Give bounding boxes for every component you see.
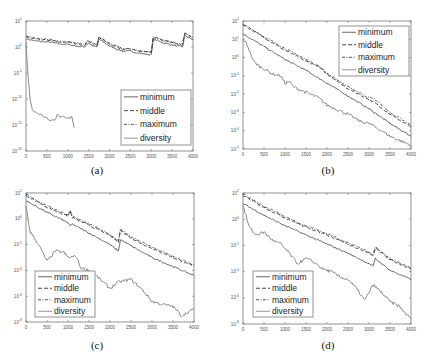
x-tick-label: 500 (43, 325, 51, 330)
x-tick-label: 2500 (343, 327, 354, 332)
x-tick-label: 2000 (105, 325, 116, 330)
y-tick-label: 10-4 (231, 268, 239, 274)
x-tick-label: 2000 (322, 152, 333, 157)
caption-b: (b) (308, 164, 348, 176)
y-tick-label: 10-4 (231, 127, 239, 133)
x-tick-label: 0 (25, 325, 28, 330)
x-tick-label: 1000 (280, 327, 291, 332)
x-tick-label: 3500 (385, 327, 396, 332)
y-tick-label: 10-2 (14, 241, 22, 247)
y-tick-label: 102 (232, 189, 239, 195)
y-tick-label: 105 (15, 17, 22, 23)
legend-label-diversity: diversity (54, 306, 86, 316)
x-tick-label: 2500 (126, 325, 137, 330)
x-tick-label: 3000 (364, 327, 375, 332)
x-tick-label: 4000 (406, 152, 417, 157)
y-tick-label: 10-5 (14, 69, 22, 75)
x-tick-label: 0 (242, 327, 245, 332)
x-tick-label: 500 (43, 154, 51, 159)
legend: minimummiddlemaximumdiversity (35, 271, 95, 317)
y-tick-label: 101 (232, 36, 239, 42)
x-tick-label: 3000 (364, 152, 375, 157)
legend: minimummiddlemaximumdiversity (121, 90, 191, 145)
legend-label-maximum: maximum (140, 119, 177, 129)
y-tick-label: 10-10 (12, 95, 22, 101)
x-tick-label: 3000 (147, 325, 158, 330)
legend-label-middle: middle (54, 283, 79, 293)
x-tick-label: 2500 (343, 152, 354, 157)
figure-svg: 0500100015002000250030003500400010510010… (0, 0, 424, 363)
y-tick-label: 10-6 (231, 294, 239, 300)
x-tick-label: 1000 (63, 325, 74, 330)
chart-panel-a: 0500100015002000250030003500400010510010… (12, 17, 199, 159)
legend-label-minimum: minimum (140, 92, 174, 102)
x-tick-label: 3000 (146, 154, 157, 159)
x-tick-label: 1500 (301, 152, 312, 157)
chart-panel-b: 0500100015002000250030003500400010210110… (231, 17, 417, 157)
y-tick-label: 10-2 (231, 242, 239, 248)
legend-label-middle: middle (140, 106, 165, 116)
legend-label-minimum: minimum (358, 27, 392, 37)
x-tick-label: 2000 (104, 154, 115, 159)
y-tick-label: 10-8 (14, 318, 22, 324)
x-tick-label: 3500 (167, 154, 178, 159)
y-tick-label: 10-3 (231, 109, 239, 115)
x-tick-label: 2500 (125, 154, 136, 159)
legend-label-middle: middle (358, 40, 383, 50)
y-tick-label: 10-20 (12, 147, 22, 153)
caption-c: (c) (77, 339, 117, 351)
legend-label-middle: middle (272, 283, 297, 293)
y-tick-label: 102 (15, 189, 22, 195)
y-tick-label: 10-4 (14, 267, 22, 273)
x-tick-label: 1000 (280, 152, 291, 157)
y-tick-label: 10-8 (231, 320, 239, 326)
chart-panel-c: 0500100015002000250030003500400010210010… (14, 189, 200, 330)
legend: minimummiddlemaximumdiversity (339, 26, 409, 76)
legend-label-diversity: diversity (140, 133, 172, 143)
legend-label-minimum: minimum (272, 272, 306, 282)
y-tick-label: 10-1 (231, 72, 239, 78)
y-tick-label: 10-6 (14, 293, 22, 299)
x-tick-label: 1500 (84, 325, 95, 330)
y-tick-label: 10-2 (231, 90, 239, 96)
legend-label-diversity: diversity (272, 306, 304, 316)
x-tick-label: 4000 (188, 154, 199, 159)
legend-label-maximum: maximum (358, 52, 395, 62)
legend-label-diversity: diversity (358, 65, 390, 75)
x-tick-label: 1500 (301, 327, 312, 332)
x-tick-label: 1500 (84, 154, 95, 159)
x-tick-label: 4000 (406, 327, 417, 332)
y-tick-label: 100 (15, 43, 22, 49)
x-tick-label: 3500 (385, 152, 396, 157)
caption-a: (a) (77, 164, 117, 176)
y-tick-label: 10-5 (231, 145, 239, 151)
y-tick-label: 102 (232, 17, 239, 23)
legend-label-maximum: maximum (272, 295, 309, 305)
x-tick-label: 500 (260, 327, 268, 332)
legend-label-maximum: maximum (54, 295, 91, 305)
x-tick-label: 2000 (322, 327, 333, 332)
legend: minimummiddlemaximumdiversity (253, 271, 313, 317)
legend-label-minimum: minimum (54, 272, 88, 282)
x-tick-label: 500 (260, 152, 268, 157)
chart-panel-d: 0500100015002000250030003500400010210010… (231, 189, 417, 332)
y-tick-label: 10-15 (12, 121, 22, 127)
x-tick-label: 4000 (189, 325, 200, 330)
y-tick-label: 100 (232, 54, 239, 60)
y-tick-label: 100 (15, 215, 22, 221)
caption-d: (d) (308, 339, 348, 351)
x-tick-label: 0 (242, 152, 245, 157)
y-tick-label: 100 (232, 216, 239, 222)
x-tick-label: 0 (25, 154, 28, 159)
x-tick-label: 3500 (168, 325, 179, 330)
x-tick-label: 1000 (63, 154, 74, 159)
